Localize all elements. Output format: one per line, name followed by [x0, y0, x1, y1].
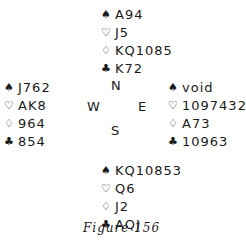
east-clubs: 10963 [182, 133, 228, 151]
diamond-icon: ♢ [101, 198, 115, 216]
east-clubs-row: ♣10963 [168, 133, 246, 151]
heart-icon: ♡ [4, 97, 18, 115]
north-spades: A94 [115, 6, 143, 24]
east-spades: void [182, 79, 214, 97]
north-spades-row: ♠A94 [101, 6, 173, 24]
heart-icon: ♡ [101, 180, 115, 198]
compass-north-label: N [111, 78, 121, 93]
south-spades-row: ♠KQ10853 [101, 162, 182, 180]
south-hearts: Q6 [115, 180, 136, 198]
west-diamonds: 964 [18, 115, 46, 133]
north-diamonds: KQ1085 [115, 42, 173, 60]
diamond-icon: ♢ [101, 42, 115, 60]
north-hearts-row: ♡J5 [101, 24, 173, 42]
spade-icon: ♠ [101, 162, 115, 180]
north-clubs: K72 [115, 60, 143, 78]
club-icon: ♣ [4, 133, 18, 151]
south-hearts-row: ♡Q6 [101, 180, 182, 198]
diamond-icon: ♢ [4, 115, 18, 133]
east-diamonds-row: ♢A73 [168, 115, 246, 133]
west-clubs: 854 [18, 133, 46, 151]
west-hand: ♠J762 ♡AK8 ♢964 ♣854 [4, 79, 51, 151]
diamond-icon: ♢ [168, 115, 182, 133]
north-hearts: J5 [115, 24, 129, 42]
east-diamonds: A73 [182, 115, 210, 133]
club-icon: ♣ [101, 60, 115, 78]
west-clubs-row: ♣854 [4, 133, 51, 151]
west-spades: J762 [18, 79, 51, 97]
west-hearts-row: ♡AK8 [4, 97, 51, 115]
south-diamonds: J2 [115, 198, 129, 216]
spade-icon: ♠ [4, 79, 18, 97]
spade-icon: ♠ [101, 6, 115, 24]
compass-south-label: S [111, 123, 119, 138]
east-hearts-row: ♡1097432 [168, 97, 246, 115]
west-hearts: AK8 [18, 97, 47, 115]
south-spades: KQ10853 [115, 162, 182, 180]
club-icon: ♣ [168, 133, 182, 151]
south-diamonds-row: ♢J2 [101, 198, 182, 216]
compass-east-label: E [138, 99, 146, 114]
east-spades-row: ♠void [168, 79, 246, 97]
west-diamonds-row: ♢964 [4, 115, 51, 133]
north-clubs-row: ♣K72 [101, 60, 173, 78]
heart-icon: ♡ [101, 24, 115, 42]
north-diamonds-row: ♢KQ1085 [101, 42, 173, 60]
spade-icon: ♠ [168, 79, 182, 97]
north-hand: ♠A94 ♡J5 ♢KQ1085 ♣K72 [101, 6, 173, 78]
east-hearts: 1097432 [182, 97, 246, 115]
heart-icon: ♡ [168, 97, 182, 115]
figure-caption: Figure 156 [83, 221, 160, 235]
west-spades-row: ♠J762 [4, 79, 51, 97]
east-hand: ♠void ♡1097432 ♢A73 ♣10963 [168, 79, 246, 151]
compass-west-label: W [87, 99, 100, 114]
